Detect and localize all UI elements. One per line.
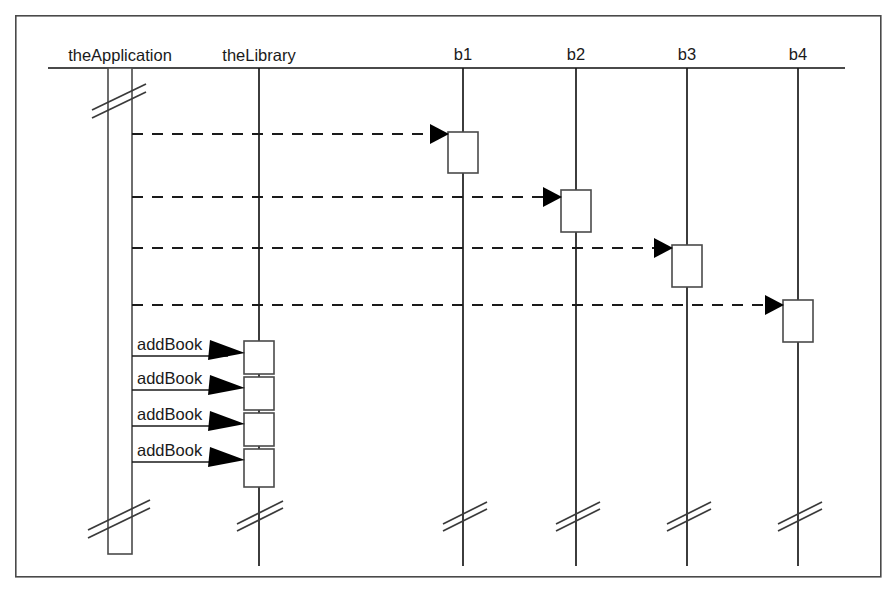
arrowhead-create-b3 bbox=[654, 238, 673, 258]
message-create-b3[interactable] bbox=[132, 238, 673, 258]
message-addbook-3[interactable]: addBook bbox=[132, 405, 245, 431]
activation-bar-thelibrary-4 bbox=[244, 449, 274, 487]
lifeline-b4 bbox=[778, 68, 822, 566]
activation-bar-thelibrary-2 bbox=[244, 377, 274, 410]
break-mark-b3-bottom bbox=[667, 502, 711, 531]
message-label-addbook-2: addBook bbox=[137, 369, 203, 387]
lifeline-label-theapplication: theApplication bbox=[68, 46, 172, 64]
message-label-addbook-4: addBook bbox=[137, 441, 203, 459]
lifeline-b2 bbox=[556, 68, 600, 566]
activation-bar-b2 bbox=[561, 190, 591, 232]
arrowhead-addbook-2 bbox=[208, 375, 245, 395]
lifeline-b3 bbox=[667, 68, 711, 566]
lifeline-label-b1: b1 bbox=[454, 45, 472, 63]
arrowhead-create-b4 bbox=[765, 295, 784, 315]
arrowhead-addbook-4 bbox=[208, 447, 245, 467]
arrowhead-addbook-1 bbox=[208, 340, 245, 360]
lifeline-label-b2: b2 bbox=[567, 45, 585, 63]
message-create-b1[interactable] bbox=[132, 124, 449, 144]
activation-bar-b3 bbox=[672, 245, 702, 287]
activation-bar-theapplication bbox=[108, 68, 132, 554]
activation-bar-thelibrary-1 bbox=[244, 341, 274, 374]
lifeline-label-b3: b3 bbox=[678, 45, 696, 63]
activation-bar-b4 bbox=[783, 300, 813, 342]
activation-bar-thelibrary-3 bbox=[244, 413, 274, 446]
break-mark-b1-bottom bbox=[443, 502, 487, 531]
activation-bar-b1 bbox=[448, 132, 478, 173]
lifeline-label-thelibrary: theLibrary bbox=[222, 46, 296, 64]
lifeline-b1 bbox=[443, 68, 487, 566]
message-addbook-1[interactable]: addBook bbox=[132, 335, 245, 360]
message-label-addbook-1: addBook bbox=[137, 335, 203, 353]
break-mark-b4-bottom bbox=[778, 502, 822, 531]
arrowhead-create-b2 bbox=[543, 187, 562, 207]
lifeline-theapplication bbox=[88, 68, 150, 554]
diagram-frame bbox=[16, 16, 881, 577]
break-mark-b2-bottom bbox=[556, 502, 600, 531]
message-addbook-2[interactable]: addBook bbox=[132, 369, 245, 395]
lifeline-thelibrary bbox=[237, 68, 283, 566]
arrowhead-addbook-3 bbox=[208, 411, 245, 431]
break-mark-thelibrary-bottom bbox=[237, 501, 283, 531]
arrowhead-create-b1 bbox=[430, 124, 449, 144]
lifeline-label-b4: b4 bbox=[789, 45, 807, 63]
message-addbook-4[interactable]: addBook bbox=[132, 441, 245, 467]
message-label-addbook-3: addBook bbox=[137, 405, 203, 423]
sequence-diagram-svg: theApplication theLibrary b1 b2 b3 b4 bbox=[0, 0, 891, 602]
message-create-b2[interactable] bbox=[132, 187, 562, 207]
sequence-diagram-canvas: theApplication theLibrary b1 b2 b3 b4 bbox=[0, 0, 891, 602]
